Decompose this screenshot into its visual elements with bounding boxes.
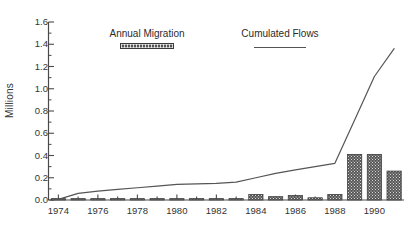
bar-series-annual-migration	[51, 154, 401, 200]
legend-swatch-bar-icon	[120, 43, 174, 49]
bar	[130, 199, 144, 200]
bar	[328, 194, 342, 200]
x-axis-tick-label: 1976	[87, 206, 108, 216]
legend-swatch-line-icon	[254, 47, 306, 48]
cumulated-flows-line	[58, 49, 394, 200]
y-axis-tick-label: 0.4	[22, 151, 48, 161]
x-axis-tick-label: 1982	[206, 206, 227, 216]
x-axis-tick-label: 1984	[245, 206, 266, 216]
bar	[229, 199, 243, 200]
bar	[367, 154, 381, 200]
legend-item-annual-migration: Annual Migration	[72, 28, 222, 49]
migration-chart: Millions 0.00.20.40.60.81.01.21.41.6 197…	[0, 0, 414, 236]
x-axis-tick-label: 1988	[324, 206, 345, 216]
bar	[71, 199, 85, 200]
y-axis-tick-label: 0.2	[22, 173, 48, 183]
x-axis-tick-label: 1980	[166, 206, 187, 216]
x-axis-tick-labels: 197419761978198019821984198619881990	[0, 206, 414, 224]
x-axis-tick-label: 1990	[364, 206, 385, 216]
bar	[387, 171, 401, 200]
x-axis-tick-label: 1986	[285, 206, 306, 216]
bar	[150, 199, 164, 200]
x-axis-tick-label: 1978	[127, 206, 148, 216]
bar	[209, 199, 223, 200]
chart-legend: Annual Migration Cumulated Flows	[0, 0, 414, 60]
legend-label-cumulated-flows: Cumulated Flows	[205, 28, 355, 40]
bar	[91, 199, 105, 200]
y-axis-tick-label: 0.6	[22, 129, 48, 139]
bar	[308, 198, 322, 200]
legend-item-cumulated-flows: Cumulated Flows	[205, 28, 355, 48]
bar	[111, 199, 125, 200]
legend-label-annual-migration: Annual Migration	[72, 28, 222, 40]
y-axis-tick-label: 0.8	[22, 106, 48, 116]
y-axis-tick-label: 1.0	[22, 84, 48, 94]
bar	[269, 197, 283, 200]
bar	[288, 196, 302, 200]
y-axis-tick-label: 0.0	[22, 195, 48, 205]
bar	[348, 154, 362, 200]
bar	[190, 199, 204, 200]
x-axis-tick-label: 1974	[48, 206, 69, 216]
bar	[249, 194, 263, 200]
y-axis-tick-label: 1.2	[22, 62, 48, 72]
bar	[170, 199, 184, 200]
line-series-cumulated-flows	[58, 49, 394, 200]
